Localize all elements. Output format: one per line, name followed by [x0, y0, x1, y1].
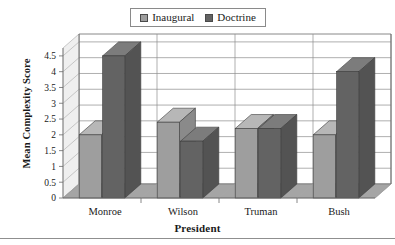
x-category-label: Wilson: [168, 206, 199, 217]
y-tick-label: 3.5: [44, 83, 56, 93]
bar-monroe-doctrine: [103, 42, 141, 198]
x-category-label: Monroe: [88, 206, 122, 217]
y-tick-label: 2: [51, 130, 56, 140]
y-tick-label: 1.5: [44, 146, 56, 156]
bottom-divider: [0, 238, 395, 239]
x-category-label: Truman: [245, 206, 279, 217]
plot-area: 00.511.522.533.544.5MonroeWilsonTrumanBu…: [0, 0, 395, 245]
x-category-label: Bush: [328, 206, 350, 217]
y-tick-label: 1: [51, 162, 56, 172]
y-tick-label: 3: [51, 99, 56, 109]
y-tick-label: 0.5: [44, 178, 56, 188]
bar-truman-doctrine: [259, 115, 297, 198]
y-tick-label: 4.5: [44, 51, 56, 61]
bar-wilson-doctrine: [181, 127, 219, 198]
y-tick-label: 2.5: [44, 114, 56, 124]
y-tick-label: 0: [51, 193, 56, 203]
bar-bush-doctrine: [337, 58, 375, 198]
y-tick-label: 4: [51, 67, 56, 77]
bar-chart: Inaugural Doctrine Mean Complexity Score…: [0, 0, 395, 245]
